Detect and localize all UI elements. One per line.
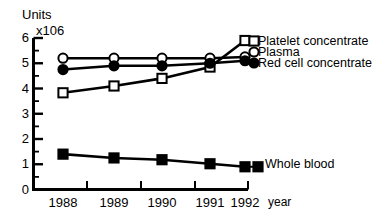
data-point-filled-circle <box>205 59 214 68</box>
data-point-filled-square <box>205 159 214 168</box>
y-tick-label: 3 <box>13 107 29 120</box>
data-point-filled-square <box>253 162 262 171</box>
y-tick-label: 1 <box>13 157 29 170</box>
data-point-filled-square <box>240 162 249 171</box>
series-line <box>63 57 245 58</box>
x-tick-label: 1990 <box>140 196 184 209</box>
x-tick-label: 1989 <box>92 196 136 209</box>
y-tick-label: 6 <box>13 31 29 44</box>
data-point-open-square <box>109 81 118 90</box>
data-point-filled-circle <box>58 65 67 74</box>
chart-figure: Units x106 0123456 19881989199019911992 … <box>0 0 392 221</box>
x-tick-label: 1992 <box>223 196 267 209</box>
y-tick-label: 0 <box>13 183 29 196</box>
data-point-filled-circle <box>240 56 249 65</box>
data-point-filled-square <box>157 155 166 164</box>
data-point-open-square <box>240 36 249 45</box>
chart-series-layer <box>58 36 262 171</box>
series-label-wholeblood: Whole blood <box>265 158 335 171</box>
x-tick-label: 1988 <box>41 196 85 209</box>
series-line <box>63 154 245 167</box>
x-axis-title: year <box>268 196 291 208</box>
data-point-filled-square <box>58 150 67 159</box>
data-point-open-circle <box>58 54 67 63</box>
data-point-filled-circle <box>109 61 118 70</box>
data-point-open-square <box>157 74 166 83</box>
data-point-filled-square <box>109 153 118 162</box>
y-tick-label: 5 <box>13 56 29 69</box>
series-line <box>63 61 245 70</box>
series-label-redcell: Red cell concentrate <box>258 57 372 70</box>
y-tick-label: 2 <box>13 132 29 145</box>
y-tick-label: 4 <box>13 82 29 95</box>
data-point-filled-circle <box>157 61 166 70</box>
data-point-open-square <box>58 88 67 97</box>
